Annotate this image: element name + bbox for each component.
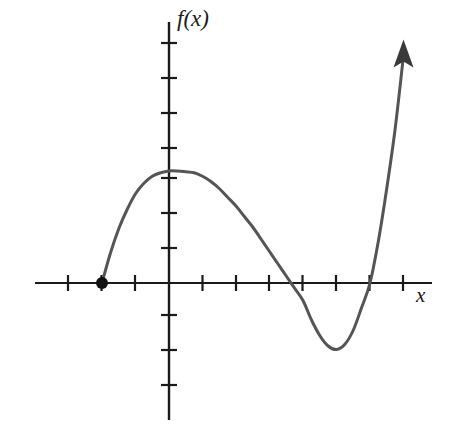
plot-canvas — [0, 0, 452, 445]
graph-figure: f(x) x — [0, 0, 452, 445]
x-axis-label: x — [416, 283, 425, 308]
y-axis-label: f(x) — [177, 6, 209, 32]
function-curve — [102, 56, 404, 350]
endpoint-dot — [96, 277, 108, 289]
